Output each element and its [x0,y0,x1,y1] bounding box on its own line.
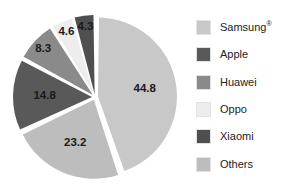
pie-slice-value-label: 23.2 [64,136,86,148]
pie-chart-plot-area: 44.823.214.88.34.64.3 [0,0,190,184]
legend-item-label: Huawei [220,77,257,88]
legend-item-label: Oppo [220,104,247,115]
pie-slice-value-label: 44.8 [134,82,157,94]
legend-color-swatch [196,20,211,35]
pie-slice[interactable] [98,18,177,171]
chart-legend: Samsung®AppleHuaweiOppoXiaomiOthers [196,14,292,178]
legend-color-swatch [196,102,211,117]
pie-chart-svg: 44.823.214.88.34.64.3 [0,0,190,184]
legend-item[interactable]: Others [196,151,292,178]
pie-slice-value-label: 4.3 [77,20,93,32]
registered-trademark-icon: ® [266,21,271,28]
legend-item-label: Apple [220,49,248,60]
legend-item[interactable]: Apple [196,41,292,68]
pie-slice-value-label: 14.8 [33,89,56,101]
legend-item[interactable]: Samsung® [196,14,292,41]
legend-color-swatch [196,157,211,172]
legend-item-label: Samsung® [220,22,272,33]
legend-color-swatch [196,47,211,62]
pie-chart-figure: 44.823.214.88.34.64.3 Samsung®AppleHuawe… [0,0,292,184]
legend-color-swatch [196,129,211,144]
legend-color-swatch [196,75,211,90]
legend-item[interactable]: Huawei [196,69,292,96]
legend-item[interactable]: Oppo [196,96,292,123]
legend-item-label: Others [220,159,253,170]
pie-slice-value-label: 4.6 [58,25,74,37]
legend-item-label: Xiaomi [220,131,254,142]
pie-slice-value-label: 8.3 [35,42,51,54]
legend-item[interactable]: Xiaomi [196,123,292,150]
